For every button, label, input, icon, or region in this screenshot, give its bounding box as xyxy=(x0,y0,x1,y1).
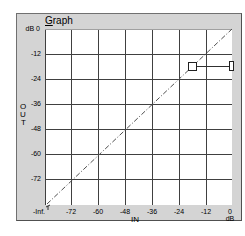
unity-reference-line xyxy=(47,29,232,204)
y-label-minus60: -60 xyxy=(19,150,41,158)
x-label-minus24: -24 xyxy=(167,208,191,216)
y-label-minus24: -24 xyxy=(19,75,41,83)
y-label-0: dB 0 xyxy=(16,25,40,33)
output-level-handle[interactable] xyxy=(230,62,234,71)
threshold-handle[interactable] xyxy=(189,63,197,71)
graph-lines xyxy=(0,0,245,236)
x-label-minus72: -72 xyxy=(59,208,83,216)
y-label-minus12: -12 xyxy=(19,50,41,58)
vertical-grid xyxy=(72,29,207,205)
x-unit-label: dB xyxy=(218,215,242,223)
x-label-minus12: -12 xyxy=(194,208,218,216)
x-label-minus60: -60 xyxy=(86,208,110,216)
y-label-minus72: -72 xyxy=(19,175,41,183)
y-axis-name-t: T xyxy=(21,119,26,127)
x-axis-name: IN xyxy=(131,216,139,224)
x-label-minus36: -36 xyxy=(140,208,164,216)
x-label-inf: -Inf. xyxy=(27,208,51,216)
horizontal-grid xyxy=(45,55,232,180)
